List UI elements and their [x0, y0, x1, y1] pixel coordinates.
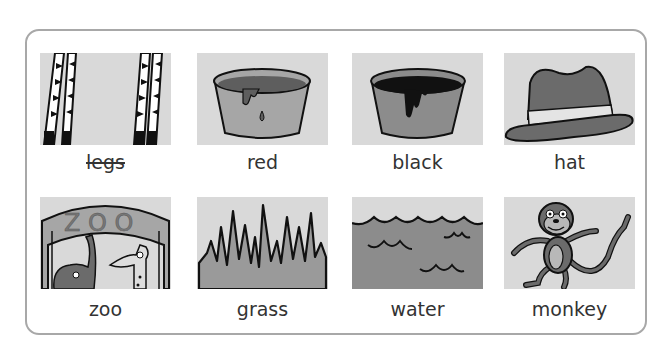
- water-icon: [352, 197, 483, 289]
- monkey-icon: [504, 197, 635, 289]
- card-label: legs: [30, 151, 181, 173]
- card-hat: hat: [504, 53, 635, 145]
- red-paint-pot-icon: [197, 53, 328, 145]
- card-label: zoo: [30, 298, 181, 320]
- black-paint-pot-icon: [352, 53, 483, 145]
- card-water: water: [352, 197, 483, 289]
- card-label: water: [342, 298, 493, 320]
- card-red: red: [197, 53, 328, 145]
- card-label: black: [342, 151, 493, 173]
- card-label: red: [187, 151, 338, 173]
- card-label: grass: [187, 298, 338, 320]
- svg-text:Z O O: Z O O: [64, 209, 133, 237]
- card-black: black: [352, 53, 483, 145]
- card-label: hat: [494, 151, 645, 173]
- card-zoo: Z O O zoo: [40, 197, 171, 289]
- zoo-gate-icon: Z O O: [40, 197, 171, 289]
- zebra-legs-icon: [40, 53, 171, 145]
- card-legs: legs: [40, 53, 171, 145]
- card-grass: grass: [197, 197, 328, 289]
- card-label: monkey: [494, 298, 645, 320]
- hat-icon: [504, 53, 635, 145]
- grass-icon: [197, 197, 328, 289]
- card-monkey: monkey: [504, 197, 635, 289]
